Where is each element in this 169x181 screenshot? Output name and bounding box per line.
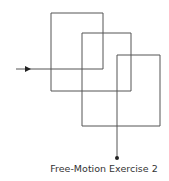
free-motion-diagram (0, 0, 169, 181)
diagram-caption: Free-Motion Exercise 2 (0, 163, 169, 174)
motion-path (16, 13, 160, 158)
arrowhead-icon (25, 66, 31, 72)
end-dot-icon (115, 156, 119, 160)
